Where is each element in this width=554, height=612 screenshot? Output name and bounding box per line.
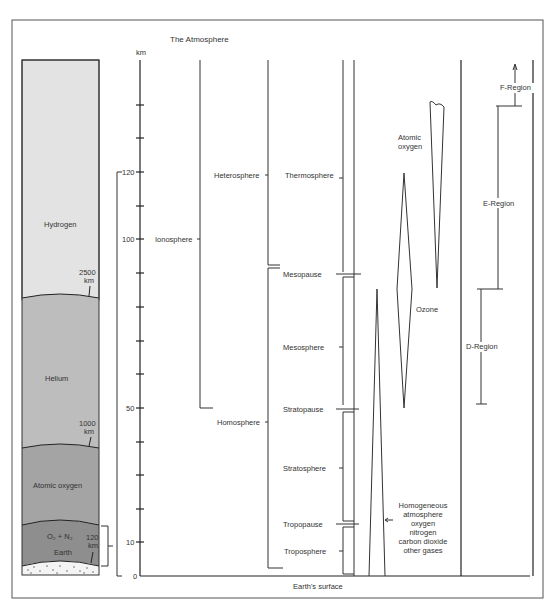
sphere-brackets — [197, 60, 283, 568]
label-mesosphere: Mesosphere — [283, 343, 324, 352]
layer-atomic-oxygen: Atomic oxygen — [33, 481, 82, 490]
label-atomic-oxygen-1: Atomic — [398, 133, 421, 142]
svg-text:nitrogen: nitrogen — [409, 528, 436, 537]
earth-surface-label: Earth's surface — [293, 582, 343, 591]
ionospheric-region-column — [461, 60, 533, 576]
tick-label-120: 120 — [122, 168, 135, 177]
altitude-axis — [136, 60, 530, 576]
label-mesopause: Mesopause — [283, 270, 322, 279]
svg-text:oxygen: oxygen — [411, 519, 435, 528]
layer-column — [336, 60, 361, 576]
svg-text:carbon dioxide: carbon dioxide — [399, 537, 448, 546]
layer-hydrogen: Hydrogen — [44, 220, 77, 229]
label-homosphere: Homosphere — [217, 418, 260, 427]
boundary-2500-unit: km — [84, 276, 94, 285]
label-d-region: D-Region — [466, 342, 498, 351]
label-e-region: E-Region — [483, 199, 514, 208]
axis-unit: km — [136, 48, 146, 57]
boundary-1000-unit: km — [84, 427, 94, 436]
label-atomic-oxygen-2: oxygen — [398, 142, 422, 151]
label-heterosphere: Heterosphere — [214, 171, 259, 180]
svg-text:atmosphere: atmosphere — [403, 510, 443, 519]
layer-o2-n2: O₂ + N₂ — [47, 532, 73, 541]
tick-label-10: 10 — [126, 538, 134, 547]
label-tropopause: Tropopause — [283, 520, 323, 529]
label-f-region: F-Region — [500, 83, 531, 92]
svg-text:Homogeneous: Homogeneous — [399, 501, 448, 510]
diagram-title: The Atmosphere — [170, 35, 229, 44]
label-stratosphere: Stratosphere — [283, 464, 326, 473]
tick-label-100: 100 — [122, 235, 135, 244]
tick-label-0: 0 — [133, 572, 137, 581]
label-ionosphere: Ionosphere — [155, 235, 193, 244]
label-stratopause: Stratopause — [283, 405, 323, 414]
boundary-120-unit: km — [88, 541, 98, 550]
homogeneous-label: Homogeneous atmosphere oxygen nitrogen c… — [399, 501, 448, 555]
layer-helium: Helium — [45, 374, 68, 383]
layer-earth: Earth — [54, 548, 72, 557]
svg-text:other gases: other gases — [403, 546, 442, 555]
scale-bracket — [101, 172, 122, 576]
tick-label-50: 50 — [126, 404, 134, 413]
label-thermosphere: Thermosphere — [285, 171, 334, 180]
atmosphere-diagram: The Atmosphere Hydrogen Helium Atomic ox… — [0, 0, 554, 612]
composition-column: Hydrogen Helium Atomic oxygen O₂ + N₂ Ea… — [22, 60, 99, 575]
label-ozone: Ozone — [416, 305, 438, 314]
label-troposphere: Troposphere — [284, 547, 326, 556]
region-brackets — [476, 64, 522, 404]
